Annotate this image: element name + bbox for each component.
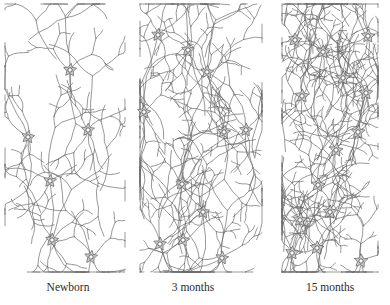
dendrite <box>373 70 378 85</box>
neuron-nucleus <box>359 259 363 263</box>
dendrite <box>96 183 98 216</box>
label-newborn: Newborn <box>18 281 118 293</box>
dendrite <box>345 239 352 240</box>
dendrite <box>29 17 67 39</box>
dendrite <box>52 190 71 241</box>
dendrite <box>341 265 353 272</box>
dendrite <box>356 70 373 84</box>
dendrite <box>331 263 336 268</box>
dendrite <box>377 205 378 210</box>
dendrite <box>252 93 260 98</box>
dendrite <box>218 92 223 100</box>
dendrite <box>169 220 174 228</box>
dendrite <box>289 233 296 234</box>
dendrite <box>114 212 116 222</box>
dendrite <box>201 143 203 152</box>
dendrite <box>65 124 76 156</box>
neuron-nucleus <box>300 94 304 98</box>
neuron-nucleus <box>298 218 302 222</box>
dendrite <box>28 42 36 48</box>
dendrite <box>232 223 240 227</box>
dendrite <box>375 107 378 110</box>
neuron-nucleus <box>180 182 184 186</box>
neuron-nucleus <box>220 256 224 260</box>
dendrite <box>72 210 83 222</box>
dendrite <box>296 262 306 266</box>
dendrite <box>67 264 87 269</box>
dendrite <box>282 269 286 272</box>
dendrite <box>197 5 198 14</box>
dendrite <box>5 95 7 103</box>
dendrite <box>191 222 199 225</box>
dendrite <box>158 73 163 81</box>
neuron-nucleus <box>181 238 185 242</box>
dendrite <box>21 145 27 153</box>
dendrite <box>191 126 218 137</box>
dendrite <box>290 121 294 126</box>
dendrite <box>252 119 259 157</box>
neuron-nucleus <box>48 179 52 183</box>
dendrite <box>27 48 37 51</box>
dendrite <box>118 108 120 125</box>
dendrite <box>82 200 83 210</box>
dendrite <box>282 74 286 91</box>
dendrite <box>14 209 24 210</box>
dendrite <box>294 132 305 134</box>
dendrite <box>208 107 217 108</box>
dendrite <box>17 154 30 177</box>
neuron-nucleus <box>244 128 248 132</box>
dendrite <box>151 203 157 210</box>
dendrite <box>197 260 202 273</box>
dendrite <box>369 145 378 146</box>
dendrite <box>87 229 89 239</box>
dendrite <box>151 267 159 272</box>
dendrite <box>85 154 93 160</box>
dendrite <box>6 102 9 118</box>
dendrite <box>340 236 346 238</box>
neuron-nucleus <box>366 34 370 38</box>
dendrite <box>140 4 147 14</box>
dendrite <box>11 199 18 206</box>
dendrite <box>50 181 54 235</box>
dendrite <box>77 212 84 220</box>
neuron-nucleus <box>341 76 345 80</box>
dendrite <box>27 266 38 273</box>
dendrite <box>32 203 34 219</box>
dendrite <box>211 46 223 55</box>
dendrite <box>181 87 186 94</box>
dendrite <box>231 231 236 238</box>
dendrite <box>282 123 285 151</box>
dendrite <box>144 241 149 249</box>
dendrite <box>350 185 362 192</box>
dendrite <box>158 253 163 267</box>
dendrite <box>357 203 364 215</box>
dendrite <box>101 121 107 148</box>
dendrite <box>203 212 206 260</box>
dendrite <box>295 144 309 155</box>
dendrite <box>151 162 165 167</box>
dendrite <box>16 4 36 21</box>
neuron-nucleus <box>222 130 226 134</box>
dendrite <box>341 144 358 148</box>
dendrite <box>292 72 301 79</box>
dendrite <box>245 7 254 19</box>
dendrite <box>341 121 352 122</box>
dendrite <box>92 55 106 64</box>
dendrite <box>189 12 191 27</box>
dendrite <box>182 73 186 87</box>
dendrite <box>305 195 314 201</box>
panel-15-months <box>282 4 378 272</box>
dendrite <box>80 216 98 226</box>
dendrite <box>61 178 67 211</box>
dendrite <box>350 77 361 79</box>
dendrite <box>166 83 171 90</box>
dendrite <box>320 265 330 268</box>
dendrite <box>311 87 319 107</box>
dendrite <box>377 45 378 54</box>
dendrite <box>299 123 305 125</box>
dendrite <box>94 28 96 38</box>
dendrite <box>320 216 330 231</box>
dendrite <box>306 123 312 126</box>
dendrite <box>316 110 321 120</box>
dendrite <box>182 4 187 9</box>
